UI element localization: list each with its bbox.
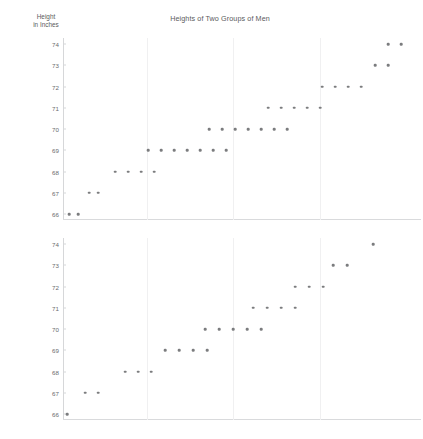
data-point xyxy=(286,128,289,131)
data-point xyxy=(321,85,324,88)
y-tick-mark xyxy=(63,329,66,330)
data-point xyxy=(232,328,235,331)
data-point xyxy=(218,328,221,331)
y-tick-mark xyxy=(63,244,66,245)
y-axis-label: Height in Inches xyxy=(10,13,82,30)
data-point xyxy=(192,349,195,352)
y-tick-label: 71 xyxy=(52,104,59,111)
y-tick-mark xyxy=(63,150,66,151)
y-tick-mark xyxy=(63,44,66,45)
data-point xyxy=(346,264,349,267)
data-point xyxy=(260,328,263,331)
data-point xyxy=(246,328,249,331)
data-point xyxy=(199,149,202,152)
plot-area-group-1: 666768697071727374 xyxy=(63,38,421,220)
y-tick-mark xyxy=(63,192,66,193)
data-point xyxy=(273,128,276,131)
data-point xyxy=(147,149,150,152)
data-point xyxy=(332,264,335,267)
data-point xyxy=(186,149,189,152)
data-point xyxy=(204,328,207,331)
data-point xyxy=(400,43,403,46)
data-point xyxy=(294,285,297,288)
dot-plot-panel-group-1: 666768697071727374 xyxy=(0,38,423,220)
y-tick-label: 73 xyxy=(52,262,59,269)
y-tick-label: 68 xyxy=(52,368,59,375)
y-tick-label: 74 xyxy=(52,41,59,48)
data-point xyxy=(66,413,69,416)
y-tick-mark xyxy=(63,129,66,130)
data-point xyxy=(387,64,390,67)
data-point xyxy=(206,349,209,352)
y-tick-label: 70 xyxy=(52,126,59,133)
dot-plot-panel-group-2: 666768697071727374 xyxy=(0,238,423,420)
data-point xyxy=(234,128,237,131)
y-tick-mark xyxy=(63,214,66,215)
data-point xyxy=(266,306,269,309)
vertical-gridline xyxy=(320,238,321,420)
y-tick-mark xyxy=(63,307,66,308)
data-point xyxy=(173,149,176,152)
data-point xyxy=(252,306,255,309)
data-point xyxy=(267,106,270,109)
data-point xyxy=(153,170,156,173)
data-point xyxy=(322,285,325,288)
data-point xyxy=(124,370,127,373)
data-point xyxy=(374,64,377,67)
data-point xyxy=(150,370,153,373)
data-point xyxy=(319,106,322,109)
data-point xyxy=(221,128,224,131)
data-point xyxy=(225,149,228,152)
data-point xyxy=(387,43,390,46)
y-tick-label: 70 xyxy=(52,326,59,333)
data-point xyxy=(208,128,211,131)
data-point xyxy=(247,128,250,131)
data-point xyxy=(280,106,283,109)
data-point xyxy=(164,349,167,352)
data-point xyxy=(77,213,80,216)
y-tick-label: 67 xyxy=(52,189,59,196)
y-tick-mark xyxy=(63,265,66,266)
vertical-gridline xyxy=(320,38,321,220)
y-axis-label-line-2: in Inches xyxy=(10,21,82,29)
y-tick-label: 71 xyxy=(52,304,59,311)
data-point xyxy=(140,170,143,173)
y-tick-mark xyxy=(63,371,66,372)
chart-figure: Heights of Two Groups of Men Height in I… xyxy=(0,0,423,439)
y-tick-label: 66 xyxy=(52,211,59,218)
data-point xyxy=(97,191,100,194)
x-axis-line xyxy=(63,419,421,420)
y-tick-label: 68 xyxy=(52,168,59,175)
data-point xyxy=(360,85,363,88)
data-point xyxy=(68,213,71,216)
vertical-gridline xyxy=(147,38,148,220)
y-tick-label: 72 xyxy=(52,283,59,290)
data-point xyxy=(260,128,263,131)
chart-title: Heights of Two Groups of Men xyxy=(120,14,320,23)
y-tick-mark xyxy=(63,286,66,287)
y-tick-label: 74 xyxy=(52,241,59,248)
data-point xyxy=(212,149,215,152)
data-point xyxy=(97,391,100,394)
vertical-gridline xyxy=(147,238,148,420)
data-point xyxy=(334,85,337,88)
y-tick-mark xyxy=(63,392,66,393)
data-point xyxy=(137,370,140,373)
data-point xyxy=(372,243,375,246)
y-axis-label-line-1: Height xyxy=(10,13,82,21)
plot-area-group-2: 666768697071727374 xyxy=(63,238,421,420)
y-tick-label: 72 xyxy=(52,83,59,90)
data-point xyxy=(306,106,309,109)
data-point xyxy=(178,349,181,352)
data-point xyxy=(84,391,87,394)
y-tick-label: 73 xyxy=(52,62,59,69)
y-tick-mark xyxy=(63,86,66,87)
data-point xyxy=(294,306,297,309)
y-tick-mark xyxy=(63,65,66,66)
data-point xyxy=(347,85,350,88)
y-tick-label: 69 xyxy=(52,147,59,154)
y-tick-label: 66 xyxy=(52,411,59,418)
x-axis-line xyxy=(63,219,421,220)
data-point xyxy=(280,306,283,309)
data-point xyxy=(293,106,296,109)
